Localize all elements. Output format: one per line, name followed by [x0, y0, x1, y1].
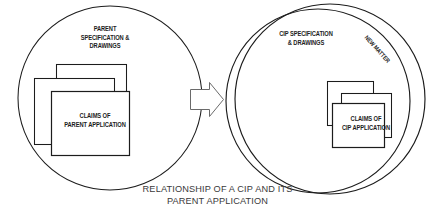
parent-claims-label: CLAIMS OF PARENT APPLICATION [56, 112, 135, 129]
cip-specification-label-line1: CIP SPECIFICATION [267, 30, 344, 39]
cip-claims-label: CLAIMS OF CIP APPLICATION [335, 115, 397, 132]
diagram-vector-layer [0, 0, 435, 214]
diagram-canvas: PARENT SPECIFICATION & DRAWINGS CLAIMS O… [0, 0, 435, 214]
parent-claims-label-line1: CLAIMS OF [56, 112, 135, 121]
parent-specification-label-line1: PARENT [66, 25, 143, 34]
diagram-caption: RELATIONSHIP OF A CIP AND ITS PARENT APP… [0, 184, 435, 207]
diagram-caption-line2: PARENT APPLICATION [0, 196, 435, 208]
cip-claims-label-line1: CLAIMS OF [335, 115, 397, 124]
parent-specification-label-line3: DRAWINGS [66, 42, 143, 51]
parent-specification-label: PARENT SPECIFICATION & DRAWINGS [66, 25, 143, 51]
parent-specification-label-line2: SPECIFICATION & [66, 34, 143, 43]
cip-claims-label-line2: CIP APPLICATION [335, 124, 397, 133]
diagram-caption-line1: RELATIONSHIP OF A CIP AND ITS [0, 184, 435, 196]
parent-claims-label-line2: PARENT APPLICATION [56, 121, 135, 130]
cip-specification-label-line2: & DRAWINGS [267, 39, 344, 48]
cip-specification-label: CIP SPECIFICATION & DRAWINGS [267, 30, 344, 47]
